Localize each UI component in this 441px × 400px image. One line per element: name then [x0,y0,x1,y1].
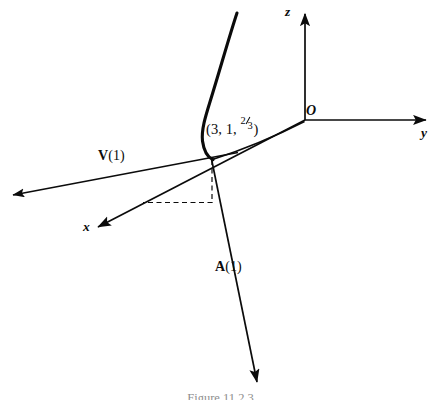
coordinate-fraction: 23 [241,119,254,134]
x-axis-label: x [83,220,90,234]
figure-canvas: z y x O (3, 1, 23) V(1) A(1) Figure 11.2… [0,0,441,400]
velocity-vector-V1 [13,153,238,196]
z-axis-label: z [285,5,290,19]
space-curve [202,13,237,160]
fraction-denominator: 3 [248,121,253,131]
coordinate-close: ) [254,121,259,137]
velocity-vector-label: V(1) [98,149,125,163]
coordinate-open: (3, 1, [206,121,241,137]
origin-label: O [306,104,316,118]
diagram-svg [0,0,441,400]
y-axis-label: y [421,126,427,140]
acceleration-symbol: A [215,259,225,274]
velocity-symbol: V [98,148,108,163]
acceleration-vector-label: A(1) [215,260,242,274]
velocity-argument: (1) [108,148,124,163]
acceleration-argument: (1) [225,259,241,274]
figure-caption: Figure 11.2.3 [0,391,441,400]
point-coordinate-label: (3, 1, 23) [206,119,258,136]
fraction-numerator: 2 [241,116,246,126]
